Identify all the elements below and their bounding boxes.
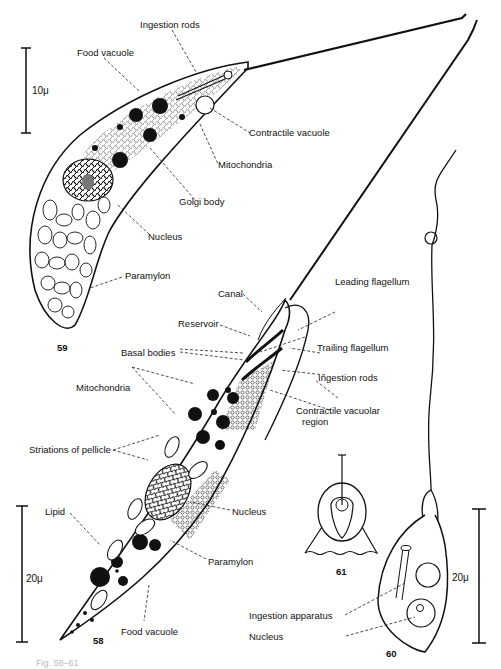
fig58-organism (60, 298, 309, 640)
label-58-ingestion-rods: Ingestion rods (318, 372, 378, 383)
label-58-mitochondria: Mitochondria (76, 382, 130, 393)
label-58-lipid: Lipid (45, 506, 65, 517)
caption-fragment: Fig. 58–61 (36, 658, 79, 669)
label-58-canal: Canal (218, 288, 243, 299)
label-58-paramylon: Paramylon (208, 556, 253, 567)
fig61-organism (305, 455, 377, 555)
label-59-food-vacuole: Food vacuole (77, 47, 134, 58)
figure-number-59: 59 (57, 342, 68, 353)
scale-label-20mu-left: 20μ (26, 573, 43, 584)
label-59-nucleus: Nucleus (148, 231, 182, 242)
label-58-contractile-vacuolar-region-line2: region (302, 416, 328, 427)
figure-number-61: 61 (336, 566, 347, 577)
label-58-reservoir: Reservoir (178, 318, 219, 329)
label-58-trailing-flagellum: Trailing flagellum (317, 342, 388, 353)
label-58-striations-of-pellicle: Striations of pellicle (29, 444, 111, 455)
label-58-basal-bodies: Basal bodies (121, 347, 175, 358)
label-58-contractile-vacuolar-region: Contractile vacuolar (296, 405, 380, 416)
label-59-contractile-vacuole: Contractile vacuole (249, 127, 330, 138)
label-59-golgi-body: Golgi body (179, 196, 224, 207)
label-58-leading-flagellum: Leading flagellum (335, 276, 409, 287)
label-60-nucleus: Nucleus (249, 631, 283, 642)
scale-label-10mu: 10μ (32, 85, 49, 96)
figure-number-58: 58 (93, 635, 104, 646)
label-58-nucleus: Nucleus (232, 506, 266, 517)
figure-number-60: 60 (386, 648, 397, 659)
label-59-mitochondria: Mitochondria (218, 159, 272, 170)
label-59-paramylon: Paramylon (125, 270, 170, 281)
label-59-ingestion-rods: Ingestion rods (140, 19, 200, 30)
label-60-ingestion-apparatus: Ingestion apparatus (249, 610, 332, 621)
scale-label-20mu-right: 20μ (452, 572, 469, 583)
fig60-organism (378, 150, 456, 652)
label-58-food-vacuole: Food vacuole (121, 626, 178, 637)
